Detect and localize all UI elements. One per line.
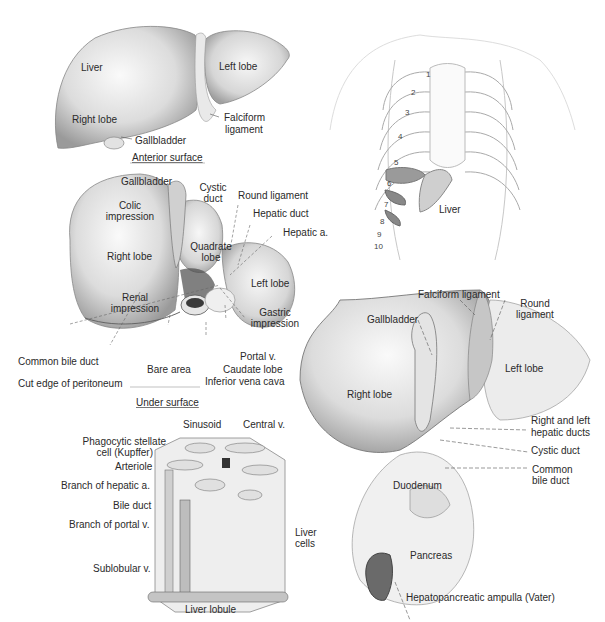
- caption-under-surface: Under surface: [136, 397, 199, 408]
- label-ducts-gallbladder: Gallbladder: [367, 314, 418, 325]
- label-gallbladder: Gallbladder: [135, 135, 186, 146]
- label-renal-2: impression: [110, 303, 160, 314]
- label-bare-area: Bare area: [147, 364, 191, 375]
- label-liver: Liver: [81, 62, 103, 73]
- label-branch-hepatic-a: Branch of hepatic a.: [61, 480, 150, 491]
- label-hepatopancreatic-ampulla: Hepatopancreatic ampulla (Vater): [406, 592, 555, 603]
- label-caudate-lobe: Caudate lobe: [223, 364, 283, 375]
- rib-number-1: 1: [426, 69, 430, 80]
- label-hepatic-a: Hepatic a.: [283, 227, 328, 238]
- liver-lobule-drawing: [148, 438, 288, 612]
- rib-number-7: 7: [384, 199, 388, 210]
- label-cut-edge-peritoneum: Cut edge of peritoneum: [18, 378, 123, 389]
- label-rl-hepatic-2: hepatic ducts: [531, 427, 590, 438]
- label-hepatic-duct: Hepatic duct: [253, 208, 309, 219]
- rib-number-6: 6: [387, 178, 391, 189]
- label-sublobular-v: Sublobular v.: [93, 563, 151, 574]
- label-cystic-duct-2: duct: [197, 193, 229, 204]
- label-left-lobe: Left lobe: [219, 61, 257, 72]
- label-common-bile-duct: Common bile duct: [18, 356, 99, 367]
- label-cystic-duct: Cystic duct: [531, 445, 580, 456]
- label-ducts-right-lobe: Right lobe: [347, 389, 392, 400]
- rib-number-8: 8: [380, 216, 384, 227]
- rib-number-2: 2: [411, 87, 415, 98]
- label-liver-cells-1: Liver: [295, 527, 317, 538]
- label-gastric-1: Gastric: [248, 307, 302, 318]
- label-ducts-left-lobe: Left lobe: [505, 363, 543, 374]
- label-inferior-vena-cava: Inferior vena cava: [205, 376, 285, 387]
- label-kupffer-2: cell (Kupffer): [60, 447, 153, 458]
- label-cystic-duct-1: Cystic: [197, 182, 229, 193]
- label-duodenum: Duodenum: [393, 480, 442, 491]
- label-colic-1: Colic: [103, 200, 157, 211]
- label-quadrate-1: Quadrate: [186, 241, 236, 252]
- label-sinusoid: Sinusoid: [183, 419, 221, 430]
- label-common-bile-duct-1: Common: [532, 464, 573, 475]
- label-falciform-line2: ligament: [225, 124, 263, 135]
- label-gastric-2: impression: [248, 318, 302, 329]
- rib-number-10: 10: [374, 241, 383, 252]
- rib-number-5: 5: [394, 157, 398, 168]
- label-rl-hepatic-1: Right and left: [531, 415, 590, 426]
- label-us-left-lobe: Left lobe: [251, 278, 289, 289]
- label-bile-duct: Bile duct: [113, 500, 151, 511]
- label-quadrate-2: lobe: [186, 252, 236, 263]
- caption-liver-lobule: Liver lobule: [185, 604, 236, 615]
- rib-number-9: 9: [377, 229, 381, 240]
- label-falciform-ligament: Falciform ligament: [418, 289, 500, 300]
- label-falciform-line1: Falciform: [224, 112, 265, 123]
- label-round-ligament-1: Round: [513, 298, 557, 309]
- label-arteriole: Arteriole: [115, 461, 152, 472]
- label-round-ligament: Round ligament: [238, 190, 308, 201]
- label-right-lobe: Right lobe: [72, 114, 117, 125]
- label-central-v: Central v.: [243, 419, 285, 430]
- label-colic-2: impression: [103, 211, 157, 222]
- label-branch-portal-v: Branch of portal v.: [69, 519, 149, 530]
- caption-anterior-surface: Anterior surface: [132, 152, 203, 163]
- label-portal-v: Portal v.: [240, 351, 276, 362]
- label-common-bile-duct-2: bile duct: [532, 475, 569, 486]
- rib-number-3: 3: [405, 107, 409, 118]
- label-us-gallbladder: Gallbladder: [121, 176, 172, 187]
- label-kupffer-1: Phagocytic stellate: [60, 436, 166, 447]
- thorax-rib-cage-drawing: [330, 35, 575, 260]
- label-pancreas: Pancreas: [410, 550, 452, 561]
- label-round-ligament-2: ligament: [513, 309, 557, 320]
- label-us-right-lobe: Right lobe: [107, 251, 152, 262]
- rib-number-4: 4: [398, 131, 402, 142]
- label-liver-cells-2: cells: [295, 538, 315, 549]
- label-renal-1: Renal: [110, 292, 160, 303]
- label-thorax-liver: Liver: [439, 204, 461, 215]
